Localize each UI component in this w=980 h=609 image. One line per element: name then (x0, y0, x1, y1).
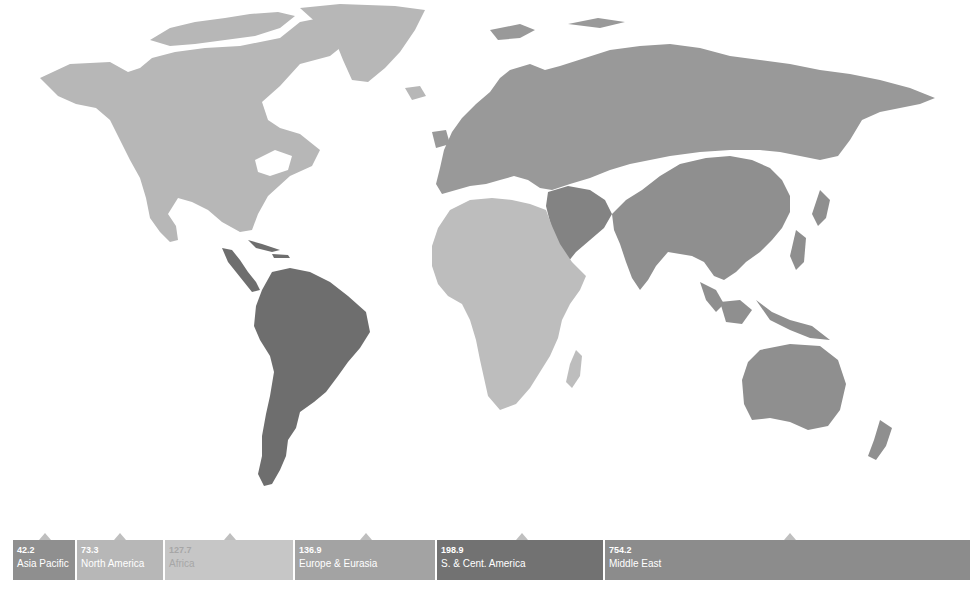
region-north-america (40, 4, 426, 242)
region-south-america (254, 268, 370, 486)
segment-value: 42.2 (17, 545, 35, 555)
region-asia-pacific (612, 156, 892, 460)
legend-segment-middle-east: 754.2 Middle East (605, 540, 970, 580)
marker-icon (224, 533, 236, 540)
legend-segment-europe-eurasia: 136.9 Europe & Eurasia (295, 540, 437, 580)
segment-value: 127.7 (169, 545, 192, 555)
legend-segment-asia-pacific: 42.2 Asia Pacific (13, 540, 77, 580)
legend-segment-north-america: 73.3 North America (77, 540, 165, 580)
marker-icon (39, 533, 51, 540)
segment-label: S. & Cent. America (441, 558, 525, 569)
segment-value: 136.9 (299, 545, 322, 555)
marker-icon (360, 533, 372, 540)
segment-label: Asia Pacific (17, 558, 69, 569)
segment-label: Europe & Eurasia (299, 558, 377, 569)
legend-segment-africa: 127.7 Africa (165, 540, 295, 580)
legend-segment-s-cent-america: 198.9 S. & Cent. America (437, 540, 605, 580)
legend-bar: 42.2 Asia Pacific 73.3 North America 127… (13, 540, 970, 580)
segment-label: North America (81, 558, 144, 569)
segment-value: 198.9 (441, 545, 464, 555)
marker-icon (516, 533, 528, 540)
segment-label: Africa (169, 558, 195, 569)
segment-value: 754.2 (609, 545, 632, 555)
marker-icon (784, 533, 796, 540)
segment-value: 73.3 (81, 545, 99, 555)
world-map (0, 0, 980, 520)
segment-label: Middle East (609, 558, 661, 569)
marker-icon (114, 533, 126, 540)
